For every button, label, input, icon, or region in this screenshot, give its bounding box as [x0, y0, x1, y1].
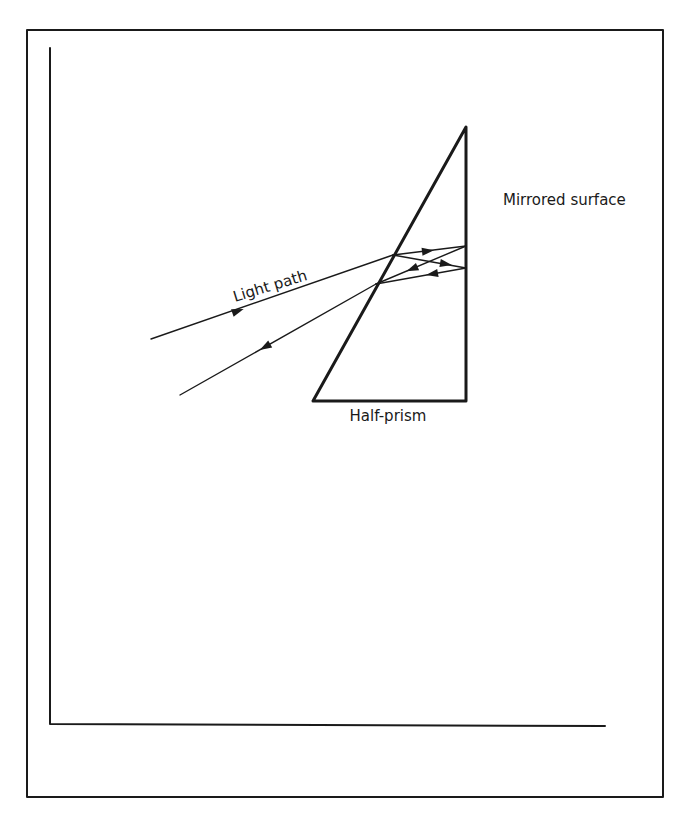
arrow-internal-3	[405, 263, 419, 275]
light-path-label: Light path	[231, 266, 309, 306]
axis-frame	[50, 48, 605, 726]
arrow-internal-2	[439, 259, 452, 269]
internal-ray-4	[376, 268, 466, 284]
arrow-internal-4	[425, 269, 438, 279]
half-prism-diagram: Mirrored surface Light path Half-prism	[0, 0, 695, 822]
half-prism-label: Half-prism	[350, 407, 427, 425]
mirrored-surface-label: Mirrored surface	[503, 191, 626, 209]
incident-ray	[151, 255, 393, 339]
arrow-internal-1	[422, 246, 435, 255]
outer-frame	[27, 30, 663, 797]
arrow-return	[258, 341, 272, 354]
